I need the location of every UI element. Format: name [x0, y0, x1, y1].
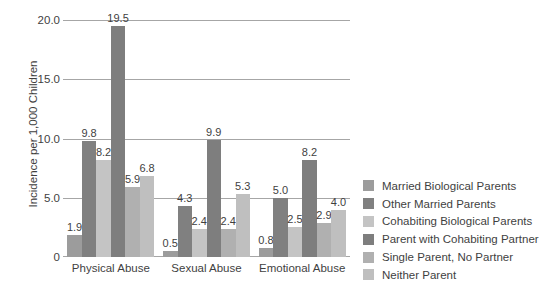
- bar-value-label: 4.3: [177, 192, 192, 204]
- bar-physical-abuse-series-2[interactable]: 8.2: [96, 160, 111, 257]
- bar-value-label: 2.4: [192, 215, 207, 227]
- bar-value-label: 8.2: [302, 146, 317, 158]
- bar-sexual-abuse-series-3[interactable]: 9.9: [207, 140, 222, 257]
- y-axis-tick-labels: 05.010.015.020.0: [12, 0, 60, 302]
- legend-swatch-icon: [363, 269, 374, 280]
- bar-sexual-abuse-series-2[interactable]: 2.4: [192, 229, 207, 257]
- bar-sexual-abuse-series-4[interactable]: 2.4: [221, 229, 236, 257]
- bar-emotional-abuse-series-0[interactable]: 0.8: [259, 248, 274, 257]
- x-axis-category-labels: Physical AbuseSexual AbuseEmotional Abus…: [63, 262, 350, 274]
- bar-value-label: 4.0: [331, 196, 346, 208]
- bar-slot: 0.8: [259, 20, 274, 257]
- legend-item-neither-parent[interactable]: Neither Parent: [363, 266, 559, 284]
- bar-value-label: 6.8: [139, 162, 154, 174]
- bar-slot: 2.9: [317, 20, 332, 257]
- y-axis-tick-20-0: 20.0: [38, 14, 60, 26]
- bar-slot: 8.2: [96, 20, 111, 257]
- bar-slot: 2.4: [192, 20, 207, 257]
- bar-value-label: 5.0: [273, 184, 288, 196]
- legend-item-married-biological-parents[interactable]: Married Biological Parents: [363, 177, 559, 195]
- bar-slot: 4.3: [178, 20, 193, 257]
- bar-sexual-abuse-series-5[interactable]: 5.3: [236, 194, 251, 257]
- x-axis-label-physical-abuse: Physical Abuse: [63, 262, 159, 274]
- bar-slot: 5.3: [236, 20, 251, 257]
- bar-physical-abuse-series-4[interactable]: 5.9: [125, 187, 140, 257]
- plot-area: 1.99.88.219.55.96.80.54.32.49.92.45.30.8…: [63, 20, 350, 257]
- legend-swatch-icon: [363, 252, 374, 263]
- y-axis-tick-15-0: 15.0: [38, 73, 60, 85]
- bar-value-label: 1.9: [67, 221, 82, 233]
- bar-value-label: 2.4: [221, 215, 236, 227]
- legend-label: Cohabiting Biological Parents: [382, 215, 532, 227]
- bar-physical-abuse-series-0[interactable]: 1.9: [67, 235, 82, 258]
- chart-legend: Married Biological ParentsOther Married …: [363, 177, 559, 284]
- bar-physical-abuse-series-3[interactable]: 19.5: [111, 26, 126, 257]
- legend-item-parent-with-cohabiting-partner[interactable]: Parent with Cohabiting Partner: [363, 230, 559, 248]
- x-axis-label-sexual-abuse: Sexual Abuse: [159, 262, 255, 274]
- bar-slot: 1.9: [67, 20, 82, 257]
- bar-value-label: 8.2: [96, 146, 111, 158]
- legend-swatch-icon: [363, 198, 374, 209]
- bar-emotional-abuse-series-3[interactable]: 8.2: [302, 160, 317, 257]
- bar-emotional-abuse-series-4[interactable]: 2.9: [317, 223, 332, 257]
- bar-slot: 2.4: [221, 20, 236, 257]
- bar-slot: 0.5: [163, 20, 178, 257]
- bar-chart: Incidence per 1,000 Children 05.010.015.…: [0, 0, 559, 302]
- legend-swatch-icon: [363, 180, 374, 191]
- bar-value-label: 2.5: [287, 213, 302, 225]
- legend-label: Neither Parent: [382, 269, 456, 281]
- bar-sexual-abuse-series-1[interactable]: 4.3: [178, 206, 193, 257]
- bar-slot: 6.8: [140, 20, 155, 257]
- bar-value-label: 0.8: [258, 234, 273, 246]
- bar-slot: 9.8: [82, 20, 97, 257]
- y-axis-tick-0: 0: [54, 251, 60, 263]
- bar-emotional-abuse-series-1[interactable]: 5.0: [273, 198, 288, 257]
- legend-item-single-parent-no-partner[interactable]: Single Parent, No Partner: [363, 248, 559, 266]
- bar-value-label: 5.9: [125, 173, 140, 185]
- bar-group-emotional-abuse: 0.85.02.58.22.94.0: [254, 20, 350, 257]
- y-axis-tick-10-0: 10.0: [38, 133, 60, 145]
- bar-sexual-abuse-series-0[interactable]: 0.5: [163, 251, 178, 257]
- x-axis-label-emotional-abuse: Emotional Abuse: [254, 262, 350, 274]
- legend-label: Other Married Parents: [382, 198, 496, 210]
- bar-value-label: 2.9: [316, 209, 331, 221]
- bar-physical-abuse-series-1[interactable]: 9.8: [82, 141, 97, 257]
- legend-label: Married Biological Parents: [382, 180, 516, 192]
- bar-value-label: 5.3: [235, 180, 250, 192]
- legend-label: Single Parent, No Partner: [382, 251, 513, 263]
- y-axis-tick-5-0: 5.0: [44, 192, 60, 204]
- bar-value-label: 9.9: [206, 126, 221, 138]
- bar-slot: 19.5: [111, 20, 126, 257]
- bar-slot: 5.9: [125, 20, 140, 257]
- bar-emotional-abuse-series-2[interactable]: 2.5: [288, 227, 303, 257]
- legend-swatch-icon: [363, 234, 374, 245]
- bar-emotional-abuse-series-5[interactable]: 4.0: [331, 210, 346, 257]
- bar-slot: 8.2: [302, 20, 317, 257]
- bar-group-sexual-abuse: 0.54.32.49.92.45.3: [159, 20, 255, 257]
- legend-item-other-married-parents[interactable]: Other Married Parents: [363, 195, 559, 213]
- bar-slot: 9.9: [207, 20, 222, 257]
- legend-label: Parent with Cohabiting Partner: [382, 233, 539, 245]
- bar-group-physical-abuse: 1.99.88.219.55.96.8: [63, 20, 159, 257]
- bar-value-label: 9.8: [81, 127, 96, 139]
- bar-slot: 2.5: [288, 20, 303, 257]
- bar-slot: 4.0: [331, 20, 346, 257]
- bar-value-label: 0.5: [163, 237, 178, 249]
- legend-swatch-icon: [363, 216, 374, 227]
- bar-physical-abuse-series-5[interactable]: 6.8: [140, 176, 155, 257]
- legend-item-cohabiting-biological-parents[interactable]: Cohabiting Biological Parents: [363, 213, 559, 231]
- bar-groups: 1.99.88.219.55.96.80.54.32.49.92.45.30.8…: [63, 20, 350, 257]
- bar-slot: 5.0: [273, 20, 288, 257]
